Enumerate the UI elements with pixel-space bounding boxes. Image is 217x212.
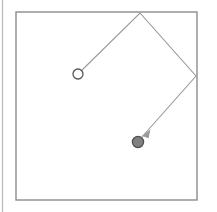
canvas-background bbox=[0, 0, 217, 212]
trajectory-diagram bbox=[0, 0, 217, 212]
figure-canvas bbox=[0, 0, 217, 212]
end-point-filled-circle-icon bbox=[132, 136, 143, 147]
start-point-open-circle-icon bbox=[73, 69, 83, 79]
